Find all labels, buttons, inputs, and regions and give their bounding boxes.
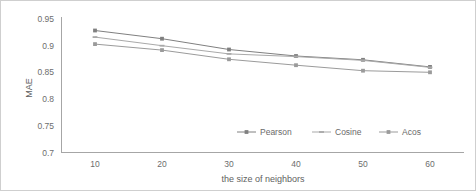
series-layer — [93, 29, 433, 75]
data-point-marker — [428, 67, 433, 69]
y-axis-tick-labels: 0.95 0.9 0.85 0.8 0.75 0.7 — [37, 14, 54, 158]
data-point-marker — [294, 56, 299, 58]
y-tick-label: 0.95 — [37, 14, 54, 24]
data-point-marker — [361, 69, 365, 73]
legend-label: Cosine — [335, 127, 362, 137]
data-point-marker — [93, 42, 97, 46]
data-point-marker — [160, 48, 164, 52]
data-point-marker — [160, 45, 165, 47]
y-tick-label: 0.8 — [42, 94, 54, 104]
legend-swatch-marker — [387, 130, 391, 134]
x-tick-label: 10 — [90, 159, 100, 169]
legend-swatch-marker — [245, 130, 249, 134]
data-point-marker — [428, 70, 432, 74]
data-point-marker — [160, 37, 164, 41]
y-tick-label: 0.9 — [42, 41, 54, 51]
data-point-marker — [227, 48, 231, 52]
data-point-marker — [361, 60, 366, 62]
legend-item-pearson[interactable]: Pearson — [237, 127, 292, 137]
x-tick-label: 60 — [425, 159, 435, 169]
y-tick-label: 0.85 — [37, 67, 54, 77]
y-axis-title: MAE — [24, 78, 34, 98]
legend-swatch-marker — [319, 131, 324, 133]
data-point-marker — [294, 63, 298, 67]
data-point-marker — [227, 53, 232, 55]
data-point-marker — [93, 29, 97, 33]
x-tick-label: 40 — [291, 159, 301, 169]
legend-item-acos[interactable]: Acos — [379, 127, 421, 137]
y-tick-label: 0.7 — [42, 148, 54, 158]
x-tick-label: 50 — [358, 159, 368, 169]
line-chart-canvas: 0.95 0.9 0.85 0.8 0.75 0.7 MAE 10 20 30 … — [1, 1, 476, 191]
chart-figure: 0.95 0.9 0.85 0.8 0.75 0.7 MAE 10 20 30 … — [0, 0, 476, 191]
legend-label: Pearson — [260, 127, 292, 137]
x-tick-label: 30 — [224, 159, 234, 169]
x-axis-tick-labels: 10 20 30 40 50 60 — [90, 159, 435, 169]
chart-legend[interactable]: PearsonCosineAcos — [237, 127, 421, 137]
x-axis-title: the size of neighbors — [221, 174, 305, 184]
series-acos — [93, 42, 432, 74]
legend-label: Acos — [402, 127, 421, 137]
legend-item-cosine[interactable]: Cosine — [312, 127, 362, 137]
y-tick-label: 0.75 — [37, 121, 54, 131]
series-line-acos — [95, 44, 430, 72]
data-point-marker — [227, 57, 231, 61]
x-tick-label: 20 — [157, 159, 167, 169]
data-point-marker — [93, 36, 98, 38]
